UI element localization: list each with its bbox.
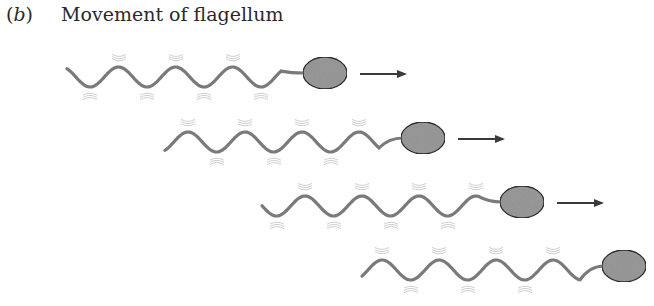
cell-body: [303, 57, 347, 89]
cell-body: [401, 122, 445, 154]
flagellum-tail: [165, 132, 403, 152]
flagellum-tail: [362, 260, 604, 280]
flagellated-cell: [67, 54, 405, 99]
cell-body: [602, 250, 646, 282]
flagellated-cell: [262, 183, 602, 228]
flagellum-tail: [262, 196, 502, 216]
motion-lines: [83, 54, 268, 99]
flagellum-tail: [67, 67, 305, 87]
motion-lines: [375, 247, 560, 292]
flagellum-movement-diagram: [0, 0, 654, 306]
cell-body: [500, 186, 544, 218]
flagellated-cell: [362, 247, 646, 292]
motion-lines: [181, 119, 366, 164]
flagellated-cell: [165, 119, 503, 164]
